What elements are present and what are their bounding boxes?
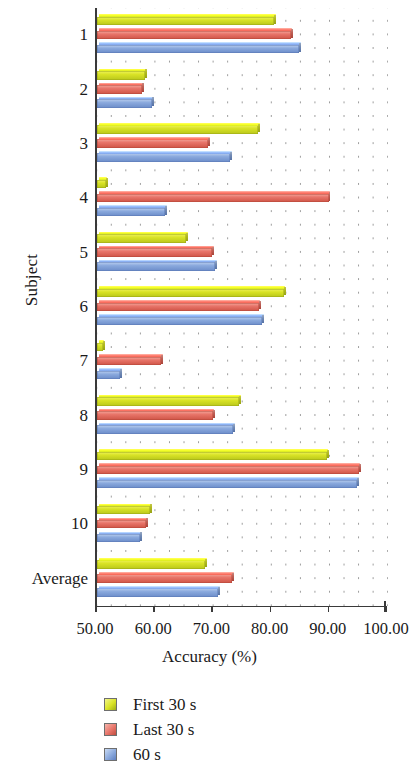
y-axis-tick-label: 8 — [80, 406, 89, 426]
y-axis-tick-label: 10 — [71, 514, 88, 534]
x-axis-tick — [328, 606, 329, 612]
bar — [97, 208, 165, 217]
bar-row — [97, 261, 388, 273]
bar-group: 1 — [97, 15, 388, 55]
bar-group: Average — [97, 559, 388, 599]
bar-row — [97, 233, 388, 245]
x-axis-tick-label: 100.00 — [363, 619, 408, 639]
y-axis-tick-label: 9 — [80, 460, 89, 480]
bar-row — [97, 301, 388, 313]
legend-swatch-icon — [104, 698, 117, 711]
legend-item: 60 s — [104, 742, 196, 767]
bar-row — [97, 138, 388, 150]
x-axis-tick-label: 50.00 — [76, 619, 113, 639]
bar-row — [97, 29, 388, 41]
bar — [97, 17, 274, 26]
x-axis-title: Accuracy (%) — [0, 647, 419, 667]
bar-row — [97, 152, 388, 164]
bar-row — [97, 247, 388, 259]
bar — [97, 125, 258, 134]
bar-group: 2 — [97, 70, 388, 110]
bar-row — [97, 532, 388, 544]
legend-item: First 30 s — [104, 692, 196, 717]
bar-group: 4 — [97, 178, 388, 218]
bar — [97, 506, 150, 515]
bar — [97, 153, 230, 162]
bar — [97, 520, 146, 529]
y-axis-tick-label: 5 — [80, 243, 89, 263]
bar-row — [97, 98, 388, 110]
bar-row — [97, 315, 388, 327]
x-axis — [95, 606, 386, 607]
x-axis-tick-label: 90.00 — [309, 619, 346, 639]
bar — [97, 85, 142, 94]
bar-group: 5 — [97, 233, 388, 273]
bar-row — [97, 573, 388, 585]
bar-group: 6 — [97, 287, 388, 327]
bar — [97, 425, 233, 434]
legend-swatch-icon — [104, 748, 117, 761]
legend-label: Last 30 s — [133, 720, 194, 740]
bar-row — [97, 504, 388, 516]
bar-row — [97, 43, 388, 55]
y-axis-tick-label: 7 — [80, 351, 89, 371]
legend-label: 60 s — [133, 745, 161, 765]
bar-row — [97, 192, 388, 204]
chart-legend: First 30 sLast 30 s60 s — [104, 692, 196, 767]
bar-row — [97, 206, 388, 218]
bar — [97, 99, 152, 108]
bar-group: 3 — [97, 124, 388, 164]
bar — [97, 194, 329, 203]
x-axis-tick — [386, 606, 387, 612]
bar-group: 10 — [97, 504, 388, 544]
bar — [97, 71, 145, 80]
bar-row — [97, 450, 388, 462]
bar — [97, 45, 299, 54]
bar — [97, 248, 212, 257]
bar — [97, 480, 357, 489]
bar-group: 7 — [97, 341, 388, 381]
bar — [97, 588, 218, 597]
bar — [97, 317, 262, 326]
bar-row — [97, 410, 388, 422]
bar — [97, 343, 103, 352]
accuracy-bar-chart: Subject 12345678910Average 50.0060.0070.… — [0, 0, 419, 771]
bar-row — [97, 70, 388, 82]
x-axis-tick-label: 70.00 — [193, 619, 230, 639]
plot-area: 12345678910Average — [95, 8, 388, 606]
y-axis-tick-label: 4 — [80, 188, 89, 208]
y-axis-tick-label: 6 — [80, 297, 89, 317]
bar — [97, 560, 205, 569]
y-axis-title: Subject — [22, 215, 42, 345]
bar — [97, 574, 232, 583]
legend-label: First 30 s — [133, 695, 196, 715]
bar — [97, 303, 259, 312]
y-axis-tick-label: 2 — [80, 80, 89, 100]
bar — [97, 534, 140, 543]
bar — [97, 371, 120, 380]
bar — [97, 31, 291, 40]
y-axis-tick-label: 3 — [80, 134, 89, 154]
bar-row — [97, 587, 388, 599]
bar — [97, 139, 208, 148]
bar — [97, 289, 284, 298]
x-axis-tick-label: 80.00 — [251, 619, 288, 639]
x-axis-tick-label: 60.00 — [135, 619, 172, 639]
bar-row — [97, 178, 388, 190]
legend-swatch-icon — [104, 723, 117, 736]
y-axis-tick-label: Average — [32, 569, 88, 589]
bar-row — [97, 287, 388, 299]
bar — [97, 234, 186, 243]
x-axis-tick — [153, 606, 154, 612]
x-axis-tick — [95, 606, 96, 612]
bar-row — [97, 424, 388, 436]
x-axis-tick — [211, 606, 212, 612]
bar-row — [97, 478, 388, 490]
bar-row — [97, 15, 388, 27]
bar — [97, 357, 161, 366]
bar-row — [97, 355, 388, 367]
bar-row — [97, 518, 388, 530]
bar-group: 9 — [97, 450, 388, 490]
bar-row — [97, 84, 388, 96]
x-axis-tick-labels: 50.0060.0070.0080.0090.00100.00 — [0, 619, 419, 641]
